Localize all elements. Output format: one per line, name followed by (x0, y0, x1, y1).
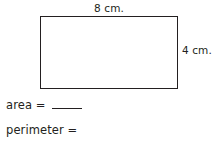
question-area-label: area = (6, 98, 46, 112)
figure-area: 8 cm. 4 cm. (0, 0, 219, 92)
question-perimeter-label: perimeter = (6, 123, 77, 137)
rectangle-shape (40, 16, 178, 89)
rectangle-width-label: 8 cm. (40, 2, 178, 14)
rectangle-height-label: 4 cm. (182, 44, 212, 56)
question-perimeter: perimeter = (6, 123, 77, 137)
questions-list: area = perimeter = (0, 92, 219, 146)
question-area-answer-blank[interactable] (52, 99, 82, 109)
geometry-worksheet: 8 cm. 4 cm. area = perimeter = (0, 0, 219, 146)
question-area: area = (6, 98, 82, 112)
